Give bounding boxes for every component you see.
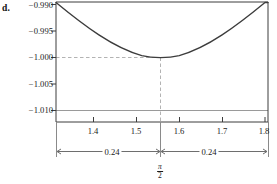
x-tick-label: 1.7: [217, 126, 228, 136]
x-tick-label: 1.8: [259, 126, 270, 136]
x-tick-label: 1.4: [88, 126, 99, 136]
y-tick-label: −1.010: [29, 106, 53, 115]
y-tick-label: −1.005: [29, 80, 53, 89]
left-interval-label: 0.24: [102, 147, 121, 157]
curve-series: [56, 3, 268, 58]
part-label: d.: [2, 3, 10, 14]
x-tick-label: 1.5: [131, 126, 142, 136]
plot-frame: [56, 2, 268, 122]
y-axis-tick-labels: −0.990 −0.995 −1.000 −1.005 −1.010: [14, 0, 53, 130]
right-interval-label: 0.24: [199, 147, 218, 157]
x-tick-label: 1.6: [174, 126, 185, 136]
y-tick-label: −0.995: [29, 27, 53, 36]
fraction-denominator: 2: [157, 172, 163, 180]
y-tick-label: −0.990: [29, 1, 53, 10]
x-axis-ticks: [94, 117, 266, 122]
y-tick-label: −1.000: [29, 53, 53, 62]
x-axis-tick-labels: 1.4 1.5 1.6 1.7 1.8: [0, 126, 277, 140]
figure-container: d. −0.990 −0.995 −1.000 −1.005 −1.010 1.…: [0, 0, 277, 184]
center-point-label: π 2: [157, 163, 163, 180]
